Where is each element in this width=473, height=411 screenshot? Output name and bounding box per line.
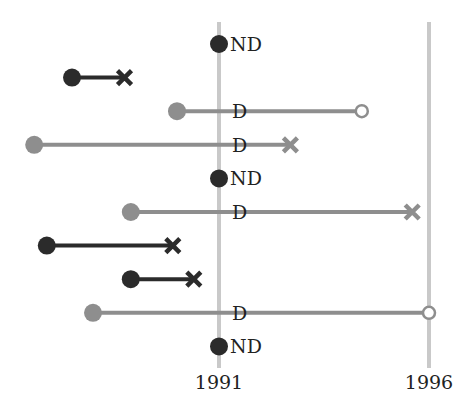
timeline-row: D <box>25 134 297 156</box>
timeline-row: D <box>122 201 419 223</box>
row-label: D <box>232 134 247 156</box>
row-label: D <box>232 201 247 223</box>
open-circle-icon <box>356 105 368 117</box>
timeline-row <box>38 237 180 255</box>
start-dot-icon <box>122 203 140 221</box>
row-label: ND <box>230 33 262 55</box>
start-dot-icon <box>122 270 140 288</box>
row-label: ND <box>230 335 262 357</box>
timeline-row <box>122 270 201 288</box>
row-label: D <box>232 100 247 122</box>
start-dot-icon <box>38 237 56 255</box>
start-dot-icon <box>210 337 228 355</box>
timeline-row: ND <box>210 167 262 189</box>
x-tick-label: 1991 <box>195 371 243 393</box>
timeline-row: D <box>84 302 435 324</box>
start-dot-icon <box>168 102 186 120</box>
timeline-chart: NDDDNDDDND 19911996 <box>0 0 473 411</box>
timeline-row <box>63 69 132 87</box>
start-dot-icon <box>25 136 43 154</box>
reference-lines <box>219 22 429 368</box>
start-dot-icon <box>210 169 228 187</box>
start-dot-icon <box>63 69 81 87</box>
row-label: D <box>232 302 247 324</box>
x-axis-tick-labels: 19911996 <box>195 371 453 393</box>
timeline-row: D <box>168 100 368 122</box>
x-tick-label: 1996 <box>405 371 453 393</box>
start-dot-icon <box>210 35 228 53</box>
open-circle-icon <box>423 307 435 319</box>
start-dot-icon <box>84 304 102 322</box>
timeline-row: ND <box>210 335 262 357</box>
timeline-rows: NDDDNDDDND <box>25 33 435 357</box>
row-label: ND <box>230 167 262 189</box>
timeline-row: ND <box>210 33 262 55</box>
